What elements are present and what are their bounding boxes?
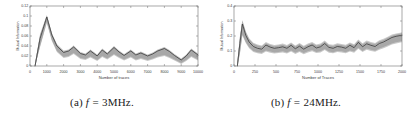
y-tick-label: 0.12 — [21, 4, 28, 8]
y-tick-label: 0.06 — [21, 34, 28, 38]
chart-b-svg: 02505007501000125015001750200000.10.20.3… — [204, 0, 408, 92]
chart-a-svg: 0100020003000400050006000700080009000100… — [0, 0, 204, 92]
y-axis-label: Mutual Information — [16, 21, 20, 50]
x-tick-label: 2000 — [60, 70, 68, 74]
figure-panel-a: 0100020003000400050006000700080009000100… — [0, 0, 204, 123]
y-tick-label: 0.4 — [227, 4, 232, 8]
y-axis-label: Mutual Information — [220, 21, 224, 50]
x-tick-label: 4000 — [93, 70, 101, 74]
x-tick-label: 5000 — [110, 70, 118, 74]
x-axis-label: Number of traces — [99, 75, 130, 80]
x-tick-label: 1500 — [356, 70, 364, 74]
subcaption-b: (b) f = 24MHz. — [204, 96, 408, 108]
x-tick-label: 250 — [252, 70, 258, 74]
two-panel-figure: 0100020003000400050006000700080009000100… — [0, 0, 408, 123]
x-tick-label: 1000 — [43, 70, 51, 74]
chart-a-root: 0100020003000400050006000700080009000100… — [16, 4, 203, 80]
x-axis-label: Number of Traces — [302, 75, 334, 80]
plot-background — [234, 6, 402, 66]
y-tick-label: 0.1 — [23, 14, 28, 18]
x-tick-label: 1250 — [335, 70, 343, 74]
x-tick-label: 500 — [273, 70, 279, 74]
x-tick-label: 2000 — [398, 70, 406, 74]
subcaption-a: (a) f = 3MHz. — [0, 96, 204, 108]
x-tick-label: 9000 — [177, 70, 185, 74]
y-tick-label: 0.2 — [227, 34, 232, 38]
x-tick-label: 6000 — [127, 70, 135, 74]
chart-b-root: 02505007501000125015001750200000.10.20.3… — [220, 4, 406, 80]
x-tick-label: 1750 — [377, 70, 385, 74]
x-tick-label: 1000 — [314, 70, 322, 74]
y-tick-label: 0 — [230, 64, 232, 68]
y-tick-label: 0.04 — [21, 44, 28, 48]
x-tick-label: 8000 — [160, 70, 168, 74]
subcaption-a-variable: f — [86, 96, 90, 108]
subcaption-a-value: 3MHz. — [102, 96, 134, 108]
subcaption-a-label: (a) — [70, 96, 83, 108]
x-tick-label: 0 — [29, 70, 31, 74]
x-tick-label: 3000 — [76, 70, 84, 74]
x-tick-label: 0 — [233, 70, 235, 74]
subcaption-b-equals: = — [294, 96, 301, 108]
x-tick-label: 7000 — [144, 70, 152, 74]
y-tick-label: 0 — [26, 64, 28, 68]
x-tick-label: 750 — [294, 70, 300, 74]
subcaption-a-equals: = — [92, 96, 99, 108]
figure-panel-b: 02505007501000125015001750200000.10.20.3… — [204, 0, 408, 123]
subcaption-b-variable: f — [287, 96, 291, 108]
y-tick-label: 0.02 — [21, 54, 28, 58]
subcaption-b-label: (b) — [271, 96, 284, 108]
plot-area-b: 02505007501000125015001750200000.10.20.3… — [204, 0, 408, 92]
y-tick-label: 0.1 — [227, 49, 232, 53]
plot-area-a: 0100020003000400050006000700080009000100… — [0, 0, 204, 92]
x-tick-label: 10000 — [193, 70, 203, 74]
y-tick-label: 0.3 — [227, 19, 232, 23]
subcaption-b-value: 24MHz. — [304, 96, 342, 108]
y-tick-label: 0.08 — [21, 24, 28, 28]
